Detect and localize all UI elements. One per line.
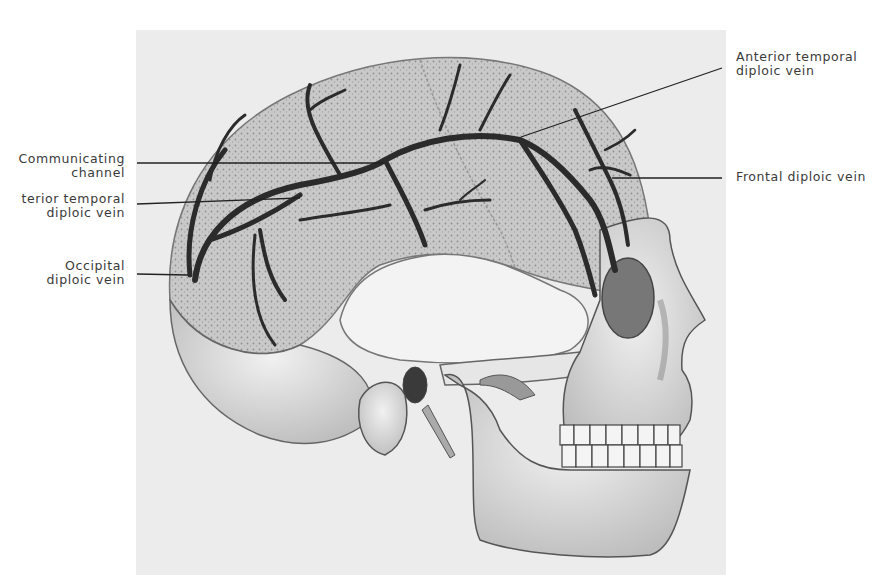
label-line: Occipital [47, 259, 125, 273]
styloid-process [422, 405, 455, 458]
orbit [602, 258, 654, 338]
label-line: Frontal diploic vein [736, 170, 866, 184]
skull-illustration [0, 0, 893, 577]
label-occipital-diploic-vein: Occipital diploic vein [47, 259, 125, 287]
label-anterior-temporal-diploic-vein: Anterior temporal diploic vein [736, 50, 857, 78]
mastoid-process [359, 382, 407, 455]
label-line: Communicating [18, 152, 125, 166]
label-frontal-diploic-vein: Frontal diploic vein [736, 170, 866, 184]
teeth [560, 425, 682, 467]
label-line: Anterior temporal [736, 50, 857, 64]
label-line: diploic vein [47, 273, 125, 287]
label-line: channel [18, 166, 125, 180]
ear-canal [403, 367, 427, 403]
label-posterior-temporal-diploic-vein: terior temporal diploic vein [21, 192, 125, 220]
label-line: diploic vein [21, 206, 125, 220]
label-communicating-channel: Communicating channel [18, 152, 125, 180]
label-line: terior temporal [21, 192, 125, 206]
label-line: diploic vein [736, 64, 857, 78]
